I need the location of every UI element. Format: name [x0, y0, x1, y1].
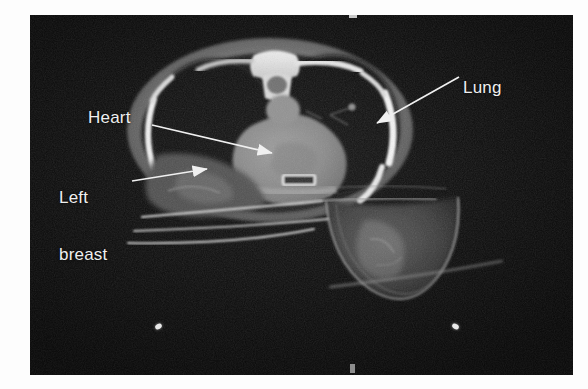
- film-grain: [30, 15, 573, 375]
- label-heart: Heart: [88, 108, 131, 127]
- figure-root: Heart Left breast Lung: [0, 0, 588, 389]
- label-lung: Lung: [463, 78, 502, 97]
- tick-top: [349, 15, 357, 18]
- ct-scan-panel[interactable]: [30, 15, 573, 375]
- label-left-breast: Left breast: [59, 150, 107, 302]
- tick-bottom: [350, 364, 355, 373]
- label-left-breast-line2: breast: [59, 245, 107, 264]
- ct-anatomy-image: [30, 15, 573, 375]
- label-left-breast-line1: Left: [59, 188, 107, 207]
